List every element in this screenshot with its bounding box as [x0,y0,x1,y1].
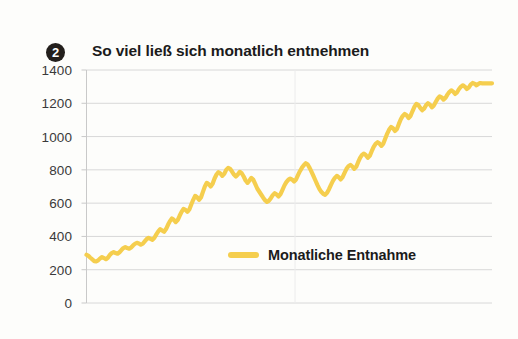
y-tick-label: 1200 [14,96,72,111]
y-tick-label: 400 [14,229,72,244]
series-line-monatliche-entnahme [87,83,493,261]
legend-label-monatliche-entnahme: Monatliche Entnahme [268,247,416,263]
chart-canvas [0,0,518,339]
chart-figure: 2 So viel ließ sich monatlich entnehmen … [0,0,518,339]
axis-ticks [82,70,87,303]
legend-swatch-monatliche-entnahme [228,252,259,258]
y-tick-label: 800 [14,162,72,177]
y-tick-label: 0 [14,296,72,311]
y-tick-label: 600 [14,196,72,211]
y-tick-label: 1400 [14,63,72,78]
y-tick-label: 1000 [14,129,72,144]
chart-legend: Monatliche Entnahme [228,247,416,263]
plot-area: 0200400600800100012001400 [0,0,518,339]
y-tick-label: 200 [14,262,72,277]
